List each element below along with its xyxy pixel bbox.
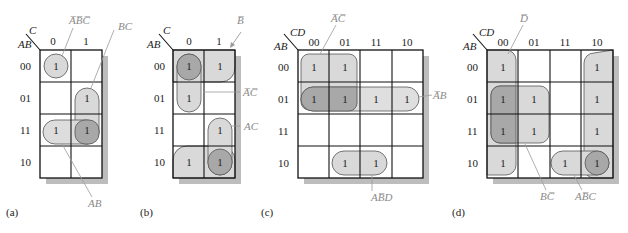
cell: 1 — [53, 60, 59, 72]
group-label: AB̅D — [370, 191, 392, 203]
col-label: 01 — [529, 36, 540, 48]
cell: 1 — [342, 61, 348, 73]
row-label: 11 — [154, 124, 165, 136]
cell: 1 — [562, 157, 568, 169]
leader-arrow — [232, 32, 241, 45]
cell: 1 — [84, 92, 90, 104]
cell: 1 — [594, 125, 600, 137]
cell: 1 — [404, 93, 410, 105]
row-label: 11 — [278, 125, 289, 137]
row-label: 00 — [20, 60, 32, 72]
cell: 1 — [186, 60, 192, 72]
col-var-label: C — [163, 24, 171, 36]
row-label: 11 — [467, 125, 478, 137]
row-label: 10 — [278, 157, 290, 169]
cell: 1 — [342, 93, 348, 105]
figure-caption: (b) — [140, 206, 153, 219]
cell: 1 — [186, 156, 192, 168]
figure-caption: (d) — [452, 206, 465, 219]
cell: 1 — [500, 157, 506, 169]
group-label: BC — [118, 20, 133, 32]
corner-diagonal — [159, 34, 173, 50]
col-label: 11 — [371, 36, 382, 48]
kmap-d: CD AB 00 01 11 10 00 01 11 10 1 1 1 1 1 … — [452, 12, 619, 219]
col-label: 00 — [309, 36, 321, 48]
row-label: 10 — [154, 156, 166, 168]
group-label: AB — [87, 197, 102, 209]
cell: 1 — [531, 125, 537, 137]
row-var-label: AB — [462, 40, 477, 52]
kmap-b: C AB 0 1 00 01 11 10 1 1 1 1 1 1 B̅ A̅C̅… — [140, 14, 259, 219]
group-label: A̅B̅C̅ — [68, 14, 91, 26]
cell: 1 — [373, 157, 379, 169]
cell: 1 — [217, 60, 223, 72]
col-label: 0 — [50, 35, 56, 47]
cell: 1 — [594, 93, 600, 105]
cell: 1 — [500, 93, 506, 105]
row-label: 01 — [467, 93, 478, 105]
kmap-a: C AB 0 1 00 01 11 10 1 1 1 1 A̅B̅C̅ BC A… — [6, 14, 133, 219]
figure-caption: (a) — [6, 206, 19, 219]
cell: 1 — [311, 93, 317, 105]
row-label: 11 — [20, 124, 31, 136]
group-label: A̅C̅ — [242, 86, 258, 98]
row-label: 01 — [20, 92, 31, 104]
row-label: 00 — [467, 61, 479, 73]
row-label: 00 — [278, 61, 290, 73]
row-var-label: AB — [146, 38, 161, 50]
row-var-label: AB — [273, 40, 288, 52]
cell: 1 — [84, 124, 90, 136]
cell: 1 — [186, 92, 192, 104]
row-var-label: AB — [17, 38, 32, 50]
karnaugh-map-figure: C AB 0 1 00 01 11 10 1 1 1 1 A̅B̅C̅ BC A… — [0, 0, 628, 233]
cell: 1 — [500, 125, 506, 137]
cell: 1 — [594, 61, 600, 73]
cell: 1 — [311, 61, 317, 73]
cell: 1 — [531, 93, 537, 105]
col-label: 10 — [402, 36, 414, 48]
cell: 1 — [217, 124, 223, 136]
group-label: A̅C̅ — [330, 12, 346, 24]
col-label: 0 — [186, 35, 192, 47]
cell: 1 — [53, 124, 59, 136]
figure-caption: (c) — [261, 206, 274, 219]
col-label: 1 — [83, 35, 89, 47]
row-label: 10 — [467, 157, 479, 169]
row-label: 10 — [20, 156, 32, 168]
cell: 1 — [594, 157, 600, 169]
cell: 1 — [500, 61, 506, 73]
row-label: 00 — [154, 60, 166, 72]
row-label: 01 — [154, 92, 165, 104]
kmap-c: CD AB 00 01 11 10 00 01 11 10 1 1 1 1 1 … — [261, 12, 447, 219]
group-label: AC — [243, 120, 259, 132]
col-label: 10 — [592, 36, 604, 48]
col-label: 11 — [560, 36, 571, 48]
group-label: AB̅C — [574, 190, 596, 202]
cell: 1 — [342, 157, 348, 169]
group-label: D̅ — [519, 12, 528, 24]
col-var-label: C — [29, 24, 37, 36]
group-label: BC̅ — [540, 190, 555, 202]
col-var-label: CD — [479, 26, 494, 38]
col-label: 01 — [340, 36, 351, 48]
row-label: 01 — [278, 93, 289, 105]
col-label: 1 — [216, 35, 222, 47]
cell: 1 — [217, 156, 223, 168]
col-label: 00 — [498, 36, 510, 48]
group-label: B̅ — [237, 14, 244, 26]
col-var-label: CD — [290, 26, 305, 38]
group-label: A̅B — [432, 89, 447, 101]
cell: 1 — [373, 93, 379, 105]
